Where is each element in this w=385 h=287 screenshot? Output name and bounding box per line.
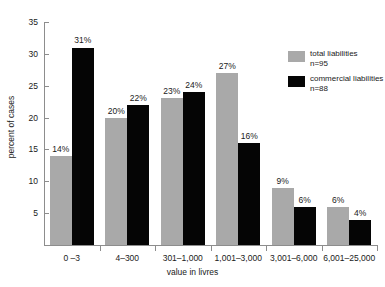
- bar: [349, 220, 371, 245]
- bar: [294, 207, 316, 245]
- bar-value-label: 24%: [179, 81, 209, 90]
- bar-value-label: 6%: [323, 196, 353, 205]
- legend-item-commercial-liabilities: commercial liabilities n=88: [288, 75, 384, 95]
- y-axis-title: percent of cases: [6, 77, 16, 177]
- legend-n-commercial-liabilities: n=88: [310, 84, 328, 94]
- x-axis-tick: [377, 246, 378, 251]
- x-axis-tick: [322, 246, 323, 251]
- y-axis-tick-label: 35: [12, 18, 38, 27]
- bar-value-label: 4%: [345, 209, 375, 218]
- y-axis-tick-label: 10: [12, 177, 38, 186]
- y-axis-tick-label: 30: [12, 50, 38, 59]
- x-axis-title: value in livres: [0, 267, 385, 277]
- bar: [127, 105, 149, 245]
- x-axis-tick: [100, 246, 101, 251]
- legend-swatch-commercial-liabilities: [288, 76, 305, 87]
- bar-value-label: 31%: [68, 36, 98, 45]
- bar-value-label: 27%: [212, 62, 242, 71]
- bar-value-label: 16%: [234, 132, 264, 141]
- bar: [216, 73, 238, 245]
- bar: [50, 156, 72, 245]
- chart-legend: total liabilities n=95 commercial liabil…: [288, 50, 384, 100]
- legend-swatch-total-liabilities: [288, 51, 305, 62]
- bar: [161, 98, 183, 245]
- bar: [72, 48, 94, 246]
- bar-value-label: 22%: [123, 94, 153, 103]
- legend-item-total-liabilities: total liabilities n=95: [288, 50, 384, 70]
- bar-value-label: 6%: [290, 196, 320, 205]
- bar: [183, 92, 205, 245]
- legend-label-commercial-liabilities: commercial liabilities: [310, 74, 383, 84]
- x-axis-tick: [211, 246, 212, 251]
- x-axis-tick: [266, 246, 267, 251]
- x-axis-tick-label: 6,001–25,000: [309, 254, 385, 263]
- bar-value-label: 9%: [268, 177, 298, 186]
- bar-chart: 5101520253035 14%31%20%22%23%24%27%16%9%…: [0, 0, 385, 287]
- legend-label-total-liabilities: total liabilities: [310, 49, 358, 59]
- y-axis-tick-label: 5: [12, 209, 38, 218]
- bar: [238, 143, 260, 245]
- legend-n-total-liabilities: n=95: [310, 59, 328, 69]
- x-axis-tick: [155, 246, 156, 251]
- bar: [105, 118, 127, 245]
